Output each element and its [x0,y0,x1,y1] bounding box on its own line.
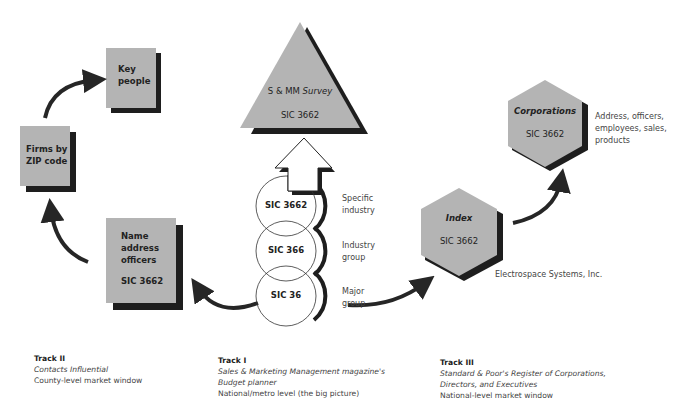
track3-title: Track III [440,357,606,368]
track3-caption: Track III Standard & Poor's Register of … [440,357,606,401]
name-address-label: Name address officers SIC 3662 [121,230,163,287]
index-sic: SIC 3662 [421,236,497,246]
track1-caption: Track I Sales & Marketing Management mag… [218,355,385,399]
corporations-sic: SIC 3662 [508,129,582,139]
survey-sic: SIC 3662 [250,110,350,120]
arrow-circles-to-name [198,288,258,308]
index-title: Index [421,213,497,223]
firms-by-zip-label: Firms by ZIP code [26,143,67,167]
index-hexagon [421,188,503,281]
circle-code-industry: SIC 366 [256,245,316,255]
key-people-line1: Key [118,63,150,75]
major-group-label: Majorgroup [342,286,365,310]
arrow-name-to-firms [51,210,88,262]
arrow-firms-to-key [45,80,95,118]
corporations-note: Address, officers, employees, sales, pro… [595,111,667,147]
track1-title: Track I [218,355,385,366]
corporations-hexagon [508,80,588,171]
track2-title: Track II [34,353,142,364]
firms-line1: Firms by [26,143,67,155]
survey-title: S & MM Survey [250,86,350,96]
track2-caption: Track II Contacts Influential County-lev… [34,353,142,386]
circle-code-major: SIC 36 [256,290,316,300]
circle-code-specific: SIC 3662 [256,200,316,210]
key-people-line2: people [118,75,150,87]
industry-group-label: Industrygroup [342,240,375,264]
corporations-title: Corporations [508,106,582,116]
firms-line2: ZIP code [26,155,67,167]
name-sic: SIC 3662 [121,275,163,287]
company-name: Electrospace Systems, Inc. [495,269,602,281]
arrow-index-to-corporations [513,180,561,223]
name-line1: Name [121,230,163,242]
name-line3: officers [121,254,163,266]
name-line2: address [121,242,163,254]
key-people-label: Key people [118,63,150,87]
specific-industry-label: Specificindustry [342,193,375,217]
